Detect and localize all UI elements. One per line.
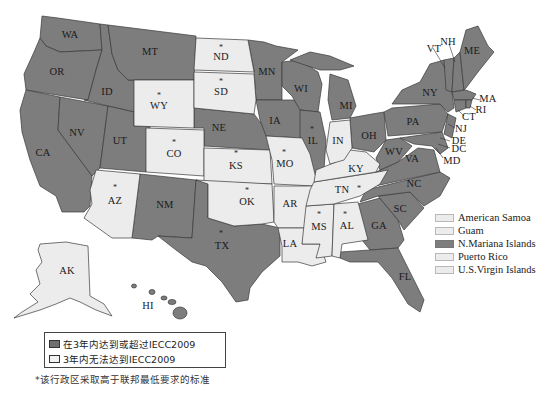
label-mn: MN [258, 67, 275, 78]
label-il: IL [308, 136, 318, 147]
state-fl [340, 248, 424, 312]
island-hi-1 [132, 284, 137, 288]
label-ak: AK [59, 266, 75, 277]
swatch-noncompliant [435, 266, 454, 274]
compliance-legend: 在3年内达到或超过IECC2009 3年内无法达到IECC2009 [44, 332, 226, 368]
label-sc: SC [393, 204, 406, 215]
label-oh: OH [361, 131, 377, 142]
territory-american-samoa: American Samoa [435, 211, 536, 224]
label-wi: WI [294, 84, 308, 95]
island-hi-big [173, 307, 187, 319]
label-mt: MT [142, 47, 158, 58]
label-co: CO [167, 149, 182, 160]
star-az: * [113, 184, 117, 192]
label-in: IN [332, 136, 343, 147]
label-nj: NJ [455, 124, 467, 135]
label-fl: FL [399, 272, 412, 283]
label-pa: PA [407, 117, 420, 128]
state-mi [328, 74, 356, 120]
island-hi-4 [168, 300, 176, 305]
state-ak [14, 242, 112, 318]
star-mo: * [282, 149, 286, 157]
label-nm: NM [156, 200, 173, 211]
label-ma: MA [479, 94, 496, 105]
island-hi-3 [161, 296, 167, 300]
label-wy: WY [150, 101, 168, 112]
label-dc: DC [452, 144, 467, 155]
label-az: AZ [108, 196, 122, 207]
star-tx: * [219, 230, 223, 238]
label-mo: MO [276, 159, 293, 170]
star-al: * [343, 211, 347, 219]
label-ri: RI [476, 105, 487, 116]
label-hi: HI [142, 301, 153, 312]
label-id: ID [101, 87, 112, 98]
label-md: MD [443, 156, 460, 167]
swatch-compliant [435, 240, 454, 248]
label-mi: MI [339, 101, 352, 112]
star-il: * [310, 126, 314, 134]
star-ks: * [234, 150, 238, 158]
label-ms: MS [311, 222, 327, 233]
label-sd: SD [214, 87, 228, 98]
label-ky: KY [348, 164, 364, 175]
territory-us-virgin-islands: U.S.Virgin Islands [435, 263, 536, 276]
label-nh: NH [440, 37, 456, 48]
label-tn: TN [335, 185, 349, 196]
label-nv: NV [69, 128, 85, 139]
legend-label-noncompliant: 3年内无法达到IECC2009 [63, 352, 175, 366]
state-ma [452, 90, 476, 100]
label-al: AL [340, 221, 354, 232]
label-ok: OK [239, 197, 255, 208]
territory-guam: Guam [435, 224, 536, 237]
star-ms: * [317, 211, 321, 219]
label-nc: NC [407, 179, 422, 190]
label-or: OR [50, 67, 65, 78]
label-ca: CA [36, 148, 51, 159]
swatch-noncompliant [435, 214, 454, 222]
swatch-noncompliant [435, 253, 454, 261]
territories-legend: American Samoa Guam N.Mariana Islands Pu… [435, 211, 536, 276]
state-me [460, 26, 494, 90]
swatch-compliant [49, 340, 60, 348]
star-ok: * [245, 187, 249, 195]
label-ar: AR [283, 199, 298, 210]
label-wa: WA [62, 30, 79, 41]
swatch-noncompliant [435, 227, 454, 235]
label-ia: IA [269, 116, 280, 127]
label-ny: NY [422, 88, 438, 99]
label-ks: KS [229, 161, 243, 172]
island-hi-2 [149, 290, 155, 295]
territory-puerto-rico: Puerto Rico [435, 250, 536, 263]
label-va: VA [405, 154, 419, 165]
legend-item-noncompliant: 3年内无法达到IECC2009 [49, 351, 225, 366]
label-nd: ND [213, 52, 229, 63]
label-ga: GA [371, 221, 387, 232]
footnote: *该行政区采取高于联邦最低要求的标准 [35, 372, 210, 386]
label-wv: WV [385, 147, 403, 158]
legend-label-compliant: 在3年内达到或超过IECC2009 [63, 337, 195, 351]
label-ut: UT [113, 136, 127, 147]
star-co: * [172, 139, 176, 147]
label-ct: CT [462, 112, 476, 123]
legend-item-compliant: 在3年内达到或超过IECC2009 [49, 336, 225, 351]
star-tn: * [357, 185, 361, 193]
label-ne: NE [212, 123, 226, 134]
territory-n-mariana-islands: N.Mariana Islands [435, 237, 536, 250]
label-me: ME [464, 46, 480, 57]
label-la: LA [283, 239, 297, 250]
label-tx: TX [215, 241, 229, 252]
swatch-noncompliant [49, 355, 60, 363]
label-vt: VT [427, 44, 441, 55]
